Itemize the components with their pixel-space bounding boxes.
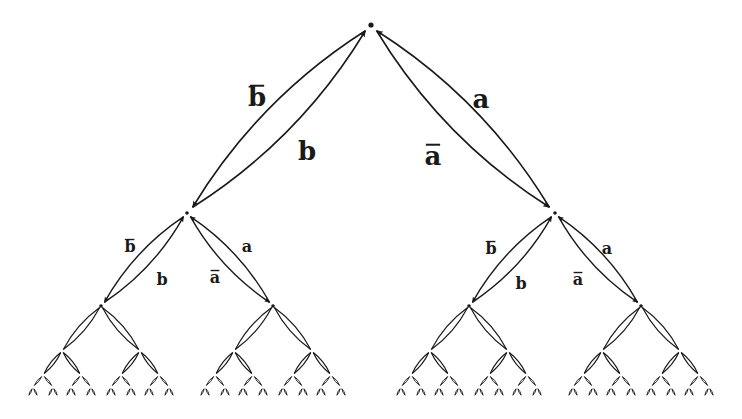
edge-arc xyxy=(509,353,526,374)
edge-arc xyxy=(490,353,507,374)
edge-arc xyxy=(603,353,620,374)
edge-arc xyxy=(294,377,301,386)
edge-arc xyxy=(470,308,506,350)
edge-arc xyxy=(642,308,678,350)
edges-group xyxy=(29,31,713,395)
edge-arc xyxy=(141,353,158,374)
edge-arc xyxy=(294,353,311,374)
edge-arc xyxy=(412,377,419,386)
edge-arc xyxy=(44,353,61,374)
edge-arc xyxy=(313,353,330,374)
tree-node xyxy=(185,211,189,215)
tree-node xyxy=(553,211,557,215)
edge-arc xyxy=(235,353,252,374)
labels-group: bbaabbaabbaa xyxy=(124,82,612,293)
edge-arc xyxy=(584,377,591,386)
edge-arc xyxy=(216,353,233,374)
edge-arc xyxy=(603,308,639,350)
edge-arc xyxy=(63,308,99,350)
edge-arc xyxy=(284,377,291,386)
edge-arc xyxy=(104,217,183,303)
edge-arc xyxy=(431,308,467,350)
edge-arc xyxy=(150,377,157,386)
edge-arc xyxy=(102,308,138,350)
edge-arc xyxy=(72,377,79,386)
generator-label-b: b xyxy=(156,270,167,289)
edge-arc xyxy=(190,217,269,303)
edge-arc xyxy=(558,217,637,303)
nodes-group xyxy=(99,22,643,307)
edge-arc xyxy=(254,377,261,386)
edge-arc xyxy=(102,308,138,350)
edge-arc xyxy=(216,353,233,374)
edge-arc xyxy=(190,217,269,303)
edge-arc xyxy=(122,353,139,374)
edge-arc xyxy=(44,377,51,386)
generator-label-b: b xyxy=(298,136,316,166)
edge-arc xyxy=(294,353,311,374)
edge-arc xyxy=(216,377,223,386)
edge-arc xyxy=(662,377,669,386)
edge-arc xyxy=(528,377,535,386)
tree-node xyxy=(271,304,275,308)
generator-label-a: a xyxy=(602,239,612,258)
edge-arc xyxy=(63,308,99,350)
edge-arc xyxy=(160,377,167,386)
edge-arc xyxy=(652,377,659,386)
edge-arc xyxy=(490,353,507,374)
edge-arc xyxy=(235,308,271,350)
edge-arc xyxy=(122,353,139,374)
edge-arc xyxy=(244,377,251,386)
edge-arc xyxy=(235,353,252,374)
edge-arc xyxy=(431,353,448,374)
edge-arc xyxy=(431,308,467,350)
edge-arc xyxy=(690,377,697,386)
edge-arc xyxy=(206,377,213,386)
edge-arc xyxy=(82,377,89,386)
edge-arc xyxy=(603,308,639,350)
tree-node xyxy=(99,304,103,308)
edge-arc xyxy=(584,353,601,374)
edge-arc xyxy=(402,377,409,386)
edge-arc xyxy=(104,217,183,303)
edge-arc xyxy=(377,31,550,208)
edge-arc xyxy=(584,353,601,374)
edge-arc xyxy=(470,308,506,350)
edge-arc xyxy=(112,377,119,386)
edge-arc xyxy=(431,353,448,374)
edge-arc xyxy=(612,377,619,386)
edge-arc xyxy=(141,353,158,374)
generator-label-b: b xyxy=(515,274,526,293)
edge-arc xyxy=(558,217,637,303)
edge-arc xyxy=(34,377,41,386)
edge-arc xyxy=(574,377,581,386)
edge-arc xyxy=(193,31,366,208)
edge-arc xyxy=(440,377,447,386)
tree-diagram: bbaabbaabbaa xyxy=(0,0,742,419)
generator-label-a: a xyxy=(473,84,490,114)
tree-node xyxy=(467,304,471,308)
edge-arc xyxy=(472,217,551,303)
edge-arc xyxy=(193,31,366,208)
tree-node xyxy=(639,304,643,308)
edge-arc xyxy=(274,308,310,350)
edge-arc xyxy=(63,353,80,374)
edge-arc xyxy=(518,377,525,386)
edge-arc xyxy=(44,353,61,374)
edge-arc xyxy=(332,377,339,386)
edge-arc xyxy=(274,308,310,350)
edge-arc xyxy=(377,31,550,208)
edge-arc xyxy=(322,377,329,386)
edge-arc xyxy=(662,353,679,374)
edge-arc xyxy=(681,353,698,374)
edge-arc xyxy=(313,353,330,374)
tree-node xyxy=(368,22,373,27)
edge-arc xyxy=(235,308,271,350)
edge-arc xyxy=(412,353,429,374)
edge-arc xyxy=(412,353,429,374)
edge-arc xyxy=(480,377,487,386)
edge-arc xyxy=(450,377,457,386)
edge-arc xyxy=(603,353,620,374)
edge-arc xyxy=(642,308,678,350)
edge-arc xyxy=(63,353,80,374)
